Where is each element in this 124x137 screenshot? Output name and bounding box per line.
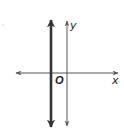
- speck: [2, 24, 3, 25]
- origin-label: O: [55, 74, 64, 86]
- y-axis-label: y: [69, 19, 77, 32]
- x-axis-label: x: [111, 74, 119, 87]
- coordinate-plane: y x O: [0, 0, 124, 137]
